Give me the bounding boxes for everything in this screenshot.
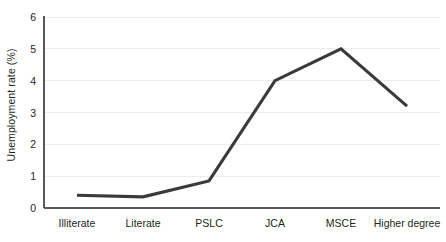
x-tick-label: MSCE	[326, 217, 356, 229]
x-tick-label: Illiterate	[59, 217, 96, 229]
x-tick-label: Literate	[125, 217, 160, 229]
y-tick-label: 1	[30, 170, 36, 182]
y-tick-label: 4	[30, 75, 36, 87]
gridlines-group	[44, 17, 440, 176]
y-tick-label: 3	[30, 107, 36, 119]
x-tick-labels-group: IlliterateLiteratePSLCJCAMSCEHigher degr…	[59, 217, 441, 229]
y-tick-label: 5	[30, 43, 36, 55]
y-tick-labels-group: 0123456	[30, 11, 36, 214]
y-tick-label: 0	[30, 202, 36, 214]
plot-area: 0123456 IlliterateLiteratePSLCJCAMSCEHig…	[0, 0, 446, 242]
y-tick-label: 2	[30, 138, 36, 150]
unemployment-rate-line-chart: Unemployment rate (%) 0123456 Illiterate…	[0, 0, 446, 242]
x-tick-label: Higher degree	[374, 217, 441, 229]
x-tick-label: PSLC	[195, 217, 223, 229]
data-series-line	[77, 49, 407, 197]
x-tick-label: JCA	[265, 217, 285, 229]
y-tick-label: 6	[30, 11, 36, 23]
